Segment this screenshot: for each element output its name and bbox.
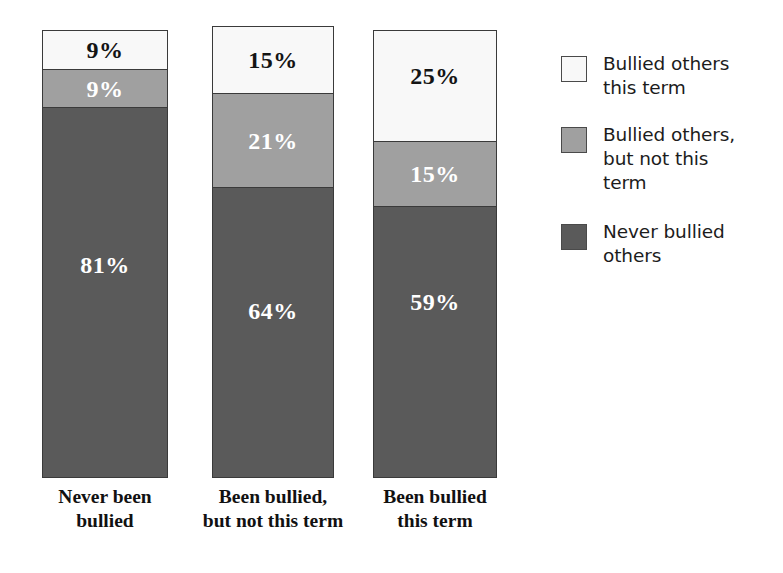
bar-segment-bullied-others-this-term: 9%	[42, 30, 168, 70]
segment-value-label: 15%	[248, 48, 298, 72]
bar-segment-bullied-others-this-term: 15%	[212, 26, 334, 94]
stacked-bar-chart: 9% 9% 81% Never been bullied 15% 21% 64%…	[0, 0, 783, 573]
category-label-never-been-bullied: Never been bullied	[20, 485, 190, 533]
segment-value-label: 81%	[80, 253, 130, 277]
category-label-been-bullied-this-term: Been bullied this term	[361, 485, 509, 533]
segment-value-label: 15%	[410, 162, 460, 186]
bar-segment-bullied-others-this-term: 25%	[373, 30, 497, 142]
segment-value-label: 9%	[87, 77, 124, 101]
bar-segment-bullied-others-but-not-this-term: 21%	[212, 94, 334, 188]
legend-swatch-icon	[561, 127, 587, 153]
segment-value-label: 64%	[248, 299, 298, 323]
bar-segment-never-bullied-others: 59%	[373, 207, 497, 478]
legend-swatch-icon	[561, 224, 587, 250]
legend-item-label: Bullied others this term	[603, 52, 778, 100]
bar-been-bullied-this-term: 25% 15% 59%	[373, 30, 497, 478]
category-label-been-bullied-but-not-this-term: Been bullied, but not this term	[177, 485, 369, 533]
legend-swatch-icon	[561, 56, 587, 82]
segment-value-label: 9%	[87, 38, 124, 62]
segment-value-label: 21%	[248, 129, 298, 153]
bar-been-bullied-but-not-this-term: 15% 21% 64%	[212, 26, 334, 478]
bar-never-been-bullied: 9% 9% 81%	[42, 30, 168, 478]
legend-item-label: Never bullied others	[603, 220, 778, 268]
bar-segment-bullied-others-but-not-this-term: 15%	[373, 142, 497, 207]
legend-item-label: Bullied others, but not this term	[603, 123, 778, 195]
bar-segment-bullied-others-but-not-this-term: 9%	[42, 70, 168, 108]
segment-value-label: 25%	[410, 64, 460, 88]
bar-segment-never-bullied-others: 64%	[212, 188, 334, 478]
bar-segment-never-bullied-others: 81%	[42, 108, 168, 478]
segment-value-label: 59%	[410, 290, 460, 314]
